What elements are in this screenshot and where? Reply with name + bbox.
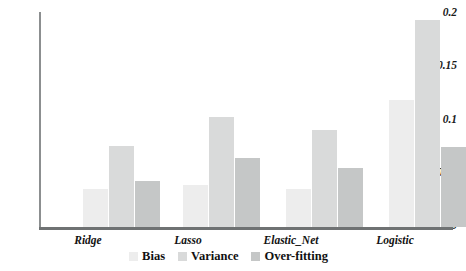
x-group-label-lasso: Lasso [174,234,201,246]
bar-logistic-variance [415,20,440,227]
legend-swatch-over-fitting-icon [251,252,260,261]
bar-lasso-bias [183,185,208,227]
legend-item-over-fitting: Over-fitting [251,250,327,263]
x-axis-line [39,227,453,230]
x-group-label-ridge: Ridge [74,234,101,246]
legend-item-variance: Variance [178,250,238,263]
legend-label-over-fitting: Over-fitting [264,250,327,263]
legend-label-bias: Bias [142,250,165,263]
legend-item-bias: Bias [129,250,165,263]
bar-elastic-net-variance [312,130,337,227]
plot-area [41,12,453,227]
legend-swatch-variance-icon [178,252,187,261]
legend-swatch-bias-icon [129,252,138,261]
bar-ridge-bias [83,189,108,227]
x-group-label-logistic: Logistic [376,234,414,246]
bar-lasso-over-fitting [235,158,260,227]
bar-lasso-variance [209,117,234,227]
bar-elastic-net-bias [286,189,311,227]
bar-elastic-net-over-fitting [338,168,363,227]
x-group-label-elastic-net: Elastic_Net [264,234,319,246]
legend-label-variance: Variance [191,250,238,263]
bar-ridge-variance [109,146,134,227]
legend: Bias Variance Over-fitting [0,250,457,263]
bar-logistic-bias [389,100,414,227]
bar-logistic-over-fitting [441,147,466,227]
bar-ridge-over-fitting [135,181,160,227]
